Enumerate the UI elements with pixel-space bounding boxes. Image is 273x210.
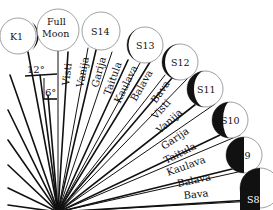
moon-label-s8: S8 (247, 194, 260, 205)
moon-label-s9: S9 (238, 150, 251, 161)
moon-label-s14: S14 (91, 26, 110, 37)
angle-marker-6: 6° (43, 78, 57, 99)
angle-label-12: 12° (27, 64, 45, 75)
moon-s9: S9 (226, 137, 262, 173)
moon-label-s11: S11 (197, 84, 216, 95)
karana-label: Balava (176, 171, 212, 189)
moon-label-k1: K1 (10, 31, 23, 42)
karana-label: Visti (60, 62, 74, 87)
moon-label-s10: S10 (221, 115, 240, 126)
moon-s13: S13 (127, 27, 163, 63)
moon-s14: S14 (82, 12, 120, 50)
moon-s12: S12 (162, 44, 198, 80)
moon-label-s13: S13 (136, 40, 155, 51)
diagram-canvas: 12° 6° K1 Full Moon S14 S13 S12 S11 S10 (0, 0, 273, 210)
moon-full: Full Moon (37, 9, 79, 51)
moon-s11: S11 (187, 71, 223, 107)
moon-label-full: Full (47, 16, 66, 27)
angle-marker-12: 12° (25, 64, 57, 76)
moon-label-s12: S12 (171, 57, 190, 68)
moon-s8: S8 (240, 168, 273, 210)
moon-s10: S10 (212, 102, 248, 138)
angle-label-6: 6° (45, 87, 56, 98)
karana-label: Bava (183, 187, 209, 201)
moon-k1: K1 (0, 18, 39, 54)
karana-diagram: 12° 6° K1 Full Moon S14 S13 S12 S11 S10 (0, 0, 273, 210)
moon-label-moon: Moon (42, 28, 69, 39)
